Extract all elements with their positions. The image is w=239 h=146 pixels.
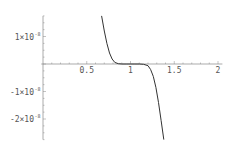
svg-text:1×10: 1×10	[15, 33, 34, 42]
y-tick-label: 1×10-8	[15, 31, 41, 42]
svg-text:-2×10: -2×10	[10, 115, 34, 124]
x-tick-label: 2	[216, 66, 221, 75]
tick-labels: 0.511.521×10-8-1×10-8-2×10-8	[10, 31, 221, 125]
y-tick-label: -1×10-8	[10, 86, 41, 97]
svg-text:-8: -8	[35, 113, 41, 119]
axes	[41, 16, 222, 140]
svg-text:-8: -8	[35, 31, 41, 37]
chart: 0.511.521×10-8-1×10-8-2×10-8	[0, 0, 239, 146]
x-tick-label: 1	[128, 66, 133, 75]
svg-text:-1×10: -1×10	[10, 88, 34, 97]
x-tick-label: 1.5	[167, 66, 182, 75]
x-tick-label: 0.5	[80, 66, 95, 75]
svg-text:-8: -8	[35, 86, 41, 92]
y-tick-label: -2×10-8	[10, 113, 41, 124]
data-series-line	[102, 16, 164, 140]
